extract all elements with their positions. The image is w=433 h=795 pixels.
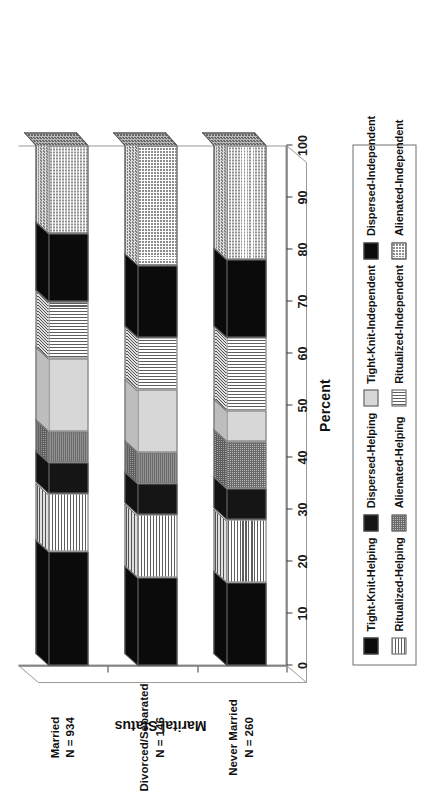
legend-item[interactable]: Alienated-Helping [391,412,406,535]
legend-swatch [363,242,378,259]
bar-segment-right-face [112,132,177,145]
percent-tick-label: 40 [295,450,309,464]
legend-item[interactable]: Tight-Knit-Independent [363,265,378,411]
bar-segment [48,233,88,301]
percent-tick [286,300,292,301]
category-label: MarriedN = 934 [47,677,78,795]
bar-segment [48,358,88,431]
legend-label: Alienated-Helping [392,416,404,508]
bar-segment [226,488,266,519]
bar-segment-top-face [35,133,48,233]
bar-segment-top-face [124,565,137,665]
category-name: Never Married [226,677,242,795]
bar-segment [226,441,266,488]
bar-segment [137,452,177,483]
legend-item[interactable]: Alienated-Independent [391,115,406,262]
percent-tick [286,560,292,561]
legend-swatch [391,637,406,654]
percent-tick [286,196,292,197]
legend-label: Tight-Knit-Helping [364,537,376,631]
category-label: Never MarriedN = 260 [226,677,257,795]
legend-item[interactable]: Ritualized-Independent [391,265,406,411]
legend-item[interactable]: Dispersed-Helping [363,412,378,535]
legend-swatch [363,637,378,654]
category-tick [286,666,287,672]
percent-tick-label: 60 [295,346,309,360]
bar-segment-top-face [213,133,226,259]
bar-segment [137,145,177,265]
bar-segment [226,337,266,410]
legend-item[interactable]: Tight-Knit-Helping [363,537,378,658]
percent-tick-label: 50 [295,398,309,412]
bar-segment [137,265,177,338]
percent-tick [286,456,292,457]
legend-label: Ritualized-Helping [392,537,404,631]
legend-swatch [391,389,406,406]
legend-label: Tight-Knit-Independent [364,265,376,384]
legend-swatch [391,242,406,259]
bar-segment [226,145,266,259]
x-axis-title: Percent [316,145,332,665]
legend: Tight-Knit-HelpingDispersed-HelpingTight… [352,144,416,665]
percent-tick-label: 90 [295,190,309,204]
category-name: Divorced/Separated [136,677,152,795]
bar-segment [137,389,177,451]
bar-1 [48,145,88,665]
percent-tick [286,248,292,249]
bar-segment [48,431,88,462]
bar-segment-top-face [124,133,137,264]
bar-segment-top-face [35,482,48,551]
legend-swatch [363,389,378,406]
bar-segment-top-face [213,508,226,582]
bar-segment [48,462,88,493]
percent-tick [286,612,292,613]
percent-tick [286,352,292,353]
bar-segment-top-face [124,503,137,577]
percent-tick-label: 0 [295,662,309,669]
bar-segment [226,259,266,337]
bar-segment [226,410,266,441]
bar-segment-top-face [213,248,226,338]
category-tick [197,666,198,672]
legend-label: Alienated-Independent [392,119,404,235]
category-n: N = 934 [63,677,79,795]
legend-item[interactable]: Dispersed-Independent [363,115,378,262]
category-n: N = 260 [241,677,257,795]
bar-segment [137,483,177,514]
percent-tick-label: 70 [295,294,309,308]
category-n: N = 146 [152,677,168,795]
category-tick [107,666,108,672]
bar-segment [48,493,88,550]
bar-segment [48,145,88,233]
bar-segment [226,519,266,581]
bar-2 [137,145,177,665]
bar-segment-right-face [202,132,267,145]
percent-tick-label: 20 [295,554,309,568]
percent-tick-label: 80 [295,242,309,256]
bar-segment-top-face [213,326,226,411]
legend-swatch [363,514,378,531]
bar-segment [137,337,177,389]
legend-swatch [391,514,406,531]
bar-segment-top-face [35,346,48,431]
legend-label: Dispersed-Independent [364,115,376,235]
bar-segment [226,582,266,665]
category-name: Married [47,677,63,795]
legend-item[interactable]: Ritualized-Helping [391,537,406,658]
bar-segment [137,577,177,665]
bar-segment-top-face [213,570,226,665]
bar-segment [48,301,88,358]
bar-segment-right-face [23,132,88,145]
percent-tick-label: 100 [295,135,309,156]
percent-tick [286,144,292,145]
y-axis-title: Marital Status [60,717,260,733]
bar-segment-top-face [124,253,137,338]
percent-tick [286,404,292,405]
category-label: Divorced/SeparatedN = 146 [136,677,167,795]
bar-segment [48,551,88,665]
bar-segment-top-face [124,378,137,452]
bar-3 [226,145,266,665]
bar-segment-top-face [35,222,48,301]
